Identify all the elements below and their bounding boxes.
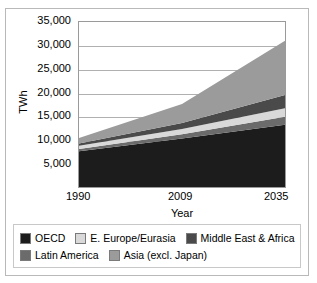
y-tick-label: 35,000 — [5, 15, 71, 26]
clipped-title-remnant — [8, 0, 308, 5]
legend-label: OECD — [35, 233, 65, 244]
chart-area: TWh 35,00030,00025,00020,00015,00010,000… — [5, 8, 309, 210]
x-tick-label: 1990 — [66, 191, 90, 202]
stacked-area-series — [79, 22, 285, 187]
legend-label: Latin America — [35, 250, 99, 261]
plot-area — [78, 21, 286, 188]
legend-swatch-icon — [186, 233, 197, 244]
legend-item[interactable]: Latin America — [20, 250, 99, 261]
legend-swatch-icon — [109, 250, 120, 261]
chart-legend: OECDE. Europe/EurasiaMiddle East & Afric… — [13, 224, 301, 268]
y-tick-label: 25,000 — [5, 63, 71, 74]
legend-swatch-icon — [20, 233, 31, 244]
legend-item[interactable]: Middle East & Africa — [186, 233, 295, 244]
legend-label: Asia (excl. Japan) — [124, 250, 207, 261]
y-tick-label: 30,000 — [5, 39, 71, 50]
legend-row: OECDE. Europe/EurasiaMiddle East & Afric… — [20, 230, 294, 247]
y-axis-label: TWh — [17, 72, 29, 132]
legend-swatch-icon — [75, 233, 86, 244]
legend-item[interactable]: Asia (excl. Japan) — [109, 250, 207, 261]
x-tick-label: 2009 — [168, 191, 192, 202]
legend-item[interactable]: OECD — [20, 233, 65, 244]
y-tick-label: 10,000 — [5, 134, 71, 145]
legend-label: Middle East & Africa — [201, 233, 295, 244]
y-tick-label: 15,000 — [5, 110, 71, 121]
chart-figure: TWh 35,00030,00025,00020,00015,00010,000… — [0, 0, 317, 283]
y-tick-label: 20,000 — [5, 87, 71, 98]
x-tick-label: 2035 — [264, 191, 288, 202]
legend-swatch-icon — [20, 250, 31, 261]
x-axis-label: Year — [78, 207, 286, 219]
y-tick-label: 5,000 — [5, 158, 71, 169]
legend-row: Latin AmericaAsia (excl. Japan) — [20, 247, 294, 264]
legend-label: E. Europe/Eurasia — [90, 233, 175, 244]
legend-item[interactable]: E. Europe/Eurasia — [75, 233, 175, 244]
